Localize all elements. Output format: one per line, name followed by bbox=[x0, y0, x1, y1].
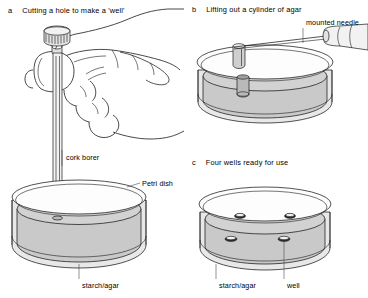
well-back-left bbox=[235, 213, 246, 218]
label-cork-borer: cork borer bbox=[66, 153, 99, 162]
well-hole-b bbox=[237, 75, 249, 97]
label-starch-agar-a: starch/agar bbox=[82, 281, 119, 290]
well-front-right bbox=[278, 236, 290, 241]
label-starch-agar-c: starch/agar bbox=[219, 281, 256, 290]
label-well: well bbox=[287, 281, 300, 290]
panel-c-artwork bbox=[184, 140, 368, 298]
panel-b: bLifting out a cylinder of agar bbox=[184, 0, 368, 140]
label-petri-dish: Petri dish bbox=[142, 179, 173, 188]
well-front-left bbox=[225, 236, 237, 241]
panel-c: cFour wells ready for use bbox=[184, 140, 368, 298]
label-mounted-needle: mounted needle bbox=[306, 18, 359, 27]
agar-cylinder bbox=[233, 44, 245, 69]
figure-canvas: aCutting a hole to make a 'well' bbox=[0, 0, 368, 298]
petri-dish-b bbox=[197, 45, 333, 123]
well-back-right bbox=[285, 213, 296, 218]
petri-dish-c bbox=[199, 187, 331, 270]
panel-a-artwork bbox=[0, 0, 184, 298]
panel-a: aCutting a hole to make a 'well' bbox=[0, 0, 184, 298]
petri-dish-a bbox=[12, 180, 146, 268]
